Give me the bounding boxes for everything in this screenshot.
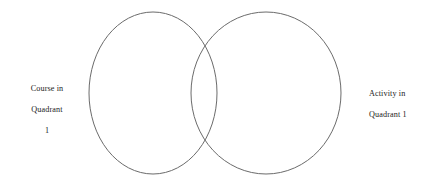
venn-label-left-line-2: Quadrant xyxy=(8,105,86,116)
venn-label-left-line-1: Course in xyxy=(8,84,86,95)
venn-diagram-canvas: Course in Quadrant 1 Activity in Quadran… xyxy=(0,0,435,183)
venn-circle-left[interactable] xyxy=(89,12,217,174)
venn-label-left: Course in Quadrant 1 xyxy=(8,73,86,147)
venn-label-right-line-1: Activity in xyxy=(369,89,433,100)
venn-label-right-line-2: Quadrant 1 xyxy=(369,110,433,121)
venn-label-left-line-3: 1 xyxy=(8,126,86,137)
venn-label-right: Activity in Quadrant 1 xyxy=(369,78,433,131)
venn-circle-right[interactable] xyxy=(191,12,341,174)
